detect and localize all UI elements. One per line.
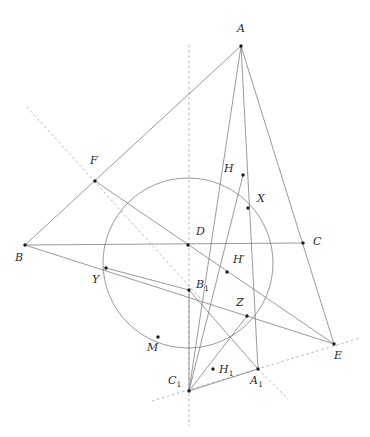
segment-A-C1 — [189, 46, 241, 391]
point-label-H: H — [224, 163, 234, 174]
point-label-Z: Z — [236, 297, 244, 308]
segment-B-E — [25, 245, 334, 344]
point-label-E: E — [334, 350, 342, 361]
vertex-dots-group — [23, 44, 335, 392]
point-label-H1: H1 — [219, 364, 233, 375]
geometry-figure-root: A B C D E F H X H′ Y B1 Z M C1 H1 A1 — [0, 0, 370, 437]
vertex-dot-Y — [104, 266, 107, 269]
segment-B1-A1 — [189, 290, 258, 369]
vertex-dot-H — [241, 173, 244, 176]
segment-A-B — [25, 46, 241, 245]
vertex-dot-C1 — [187, 389, 190, 392]
segment-B-C — [25, 243, 303, 245]
point-label-A: A — [237, 23, 245, 34]
vertex-dot-H1 — [211, 367, 214, 370]
point-label-X: X — [257, 193, 265, 204]
segment-A-E — [241, 46, 334, 344]
vertex-dot-A1 — [256, 367, 259, 370]
dashed-line-F-B1 — [27, 107, 200, 298]
point-label-H-prime: H′ — [233, 254, 245, 265]
point-label-B1: B1 — [196, 279, 209, 290]
vertex-dot-E — [332, 342, 335, 345]
point-label-B: B — [15, 252, 23, 263]
vertex-dot-B1 — [187, 288, 190, 291]
segment-C1-Z — [189, 316, 247, 391]
vertex-dot-D — [186, 243, 189, 246]
vertex-dot-H-prime — [225, 270, 228, 273]
point-label-C: C — [313, 236, 321, 247]
solid-lines-group — [25, 46, 334, 391]
segment-Y-B1 — [106, 268, 189, 290]
point-label-Y: Y — [92, 274, 99, 285]
vertex-dot-A — [239, 44, 242, 47]
geometry-canvas — [0, 0, 370, 437]
point-label-C1: C1 — [168, 375, 181, 386]
vertex-dot-B — [23, 243, 26, 246]
vertex-dot-F — [93, 179, 96, 182]
vertex-dot-M — [156, 335, 159, 338]
point-label-A1: A1 — [250, 375, 263, 386]
vertex-dot-Z — [245, 314, 248, 317]
vertex-dot-X — [246, 206, 249, 209]
vertex-dot-C — [301, 241, 304, 244]
dashed-lines-group — [27, 45, 360, 426]
point-label-M: M — [147, 342, 158, 353]
point-label-D: D — [196, 226, 205, 237]
point-label-F: F — [90, 155, 98, 166]
